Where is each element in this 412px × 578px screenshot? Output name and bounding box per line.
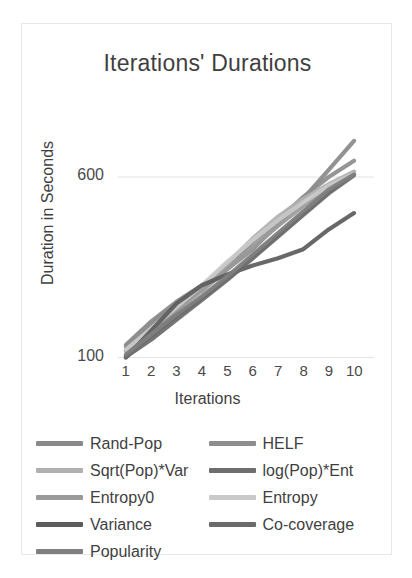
legend-label: Popularity bbox=[90, 543, 161, 561]
legend-swatch-icon bbox=[36, 495, 83, 500]
x-axis-tick: 7 bbox=[265, 362, 290, 379]
x-axis-tick: 5 bbox=[215, 362, 240, 379]
legend-swatch-icon bbox=[209, 441, 256, 446]
legend-item[interactable]: Co-coverage bbox=[209, 511, 382, 538]
x-axis-title: Iterations bbox=[22, 390, 393, 408]
x-axis-tick: 3 bbox=[164, 362, 189, 379]
x-axis-ticks: 12345678910 bbox=[113, 362, 367, 379]
legend-item[interactable]: Sqrt(Pop)*Var bbox=[36, 457, 209, 484]
x-axis-tick: 8 bbox=[291, 362, 316, 379]
chart-card: Iterations' Durations Duration in Second… bbox=[21, 23, 392, 555]
series-line bbox=[126, 213, 354, 358]
legend-item[interactable]: Rand-Pop bbox=[36, 430, 209, 457]
legend-item[interactable]: Entropy0 bbox=[36, 484, 209, 511]
legend-label: Entropy bbox=[263, 489, 318, 507]
legend-swatch-icon bbox=[209, 522, 256, 527]
legend-label: Sqrt(Pop)*Var bbox=[90, 462, 188, 480]
legend-label: HELF bbox=[263, 435, 304, 453]
legend-label: Rand-Pop bbox=[90, 435, 162, 453]
legend-swatch-icon bbox=[36, 441, 83, 446]
legend-swatch-icon bbox=[36, 468, 83, 473]
legend-swatch-icon bbox=[209, 468, 256, 473]
x-axis-tick: 1 bbox=[113, 362, 138, 379]
plot-area: Duration in Seconds 600 100 12345678910 … bbox=[22, 24, 393, 424]
x-axis-tick: 6 bbox=[240, 362, 265, 379]
chart-legend: Rand-PopHELFSqrt(Pop)*Varlog(Pop)*EntEnt… bbox=[36, 430, 381, 565]
legend-swatch-icon bbox=[209, 495, 256, 500]
legend-label: Variance bbox=[90, 516, 152, 534]
series-lines bbox=[126, 141, 354, 358]
legend-label: Co-coverage bbox=[263, 516, 355, 534]
legend-item[interactable]: Variance bbox=[36, 511, 209, 538]
legend-label: Entropy0 bbox=[90, 489, 154, 507]
x-axis-tick: 10 bbox=[342, 362, 367, 379]
x-axis-tick: 9 bbox=[316, 362, 341, 379]
legend-swatch-icon bbox=[36, 549, 83, 554]
legend-label: log(Pop)*Ent bbox=[263, 462, 354, 480]
legend-item[interactable]: Entropy bbox=[209, 484, 382, 511]
legend-item[interactable]: Popularity bbox=[36, 538, 209, 565]
legend-swatch-icon bbox=[36, 522, 83, 527]
x-axis-tick: 2 bbox=[138, 362, 163, 379]
x-axis-tick: 4 bbox=[189, 362, 214, 379]
legend-item[interactable]: HELF bbox=[209, 430, 382, 457]
legend-item[interactable]: log(Pop)*Ent bbox=[209, 457, 382, 484]
